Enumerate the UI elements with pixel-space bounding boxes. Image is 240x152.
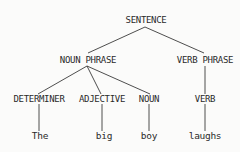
edge-nounphrase-adjective: [87, 66, 101, 94]
node-verb: VERB: [195, 94, 215, 104]
node-adjective: ADJECTIVE: [79, 94, 125, 104]
node-verb-phrase: VERB PHRASE: [177, 55, 233, 65]
parse-tree-diagram: SENTENCE NOUN PHRASE VERB PHRASE DETERMI…: [0, 0, 240, 152]
edge-nounphrase-determiner: [38, 66, 87, 94]
edge-nounphrase-noun: [87, 66, 150, 94]
node-sentence: SENTENCE: [126, 15, 167, 25]
leaf-the: The: [32, 131, 48, 141]
leaf-boy: boy: [141, 131, 157, 141]
leaf-big: big: [96, 131, 112, 141]
node-noun: NOUN: [139, 94, 159, 104]
edge-sentence-verbphrase: [145, 27, 204, 53]
node-determiner: DETERMINER: [13, 94, 64, 104]
edge-sentence-nounphrase: [88, 27, 145, 53]
node-noun-phrase: NOUN PHRASE: [60, 55, 116, 65]
leaf-laughs: laughs: [189, 131, 222, 141]
